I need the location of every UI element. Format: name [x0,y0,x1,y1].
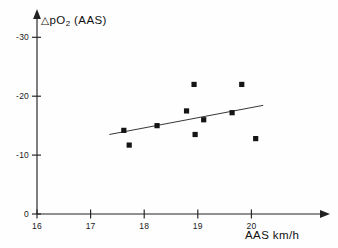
x-axis-arrow-icon [320,210,330,218]
y-tick-label-minus10: -10 [7,151,29,160]
x-tick-label-19: 19 [188,222,208,231]
y-axis-title-o: O [56,14,65,26]
y-tick-label-minus20: -20 [7,92,29,101]
data-point-marker [230,110,235,115]
y-axis-title-unit: (AAS) [74,14,107,26]
plot-area [0,0,338,248]
data-point-marker [193,132,198,137]
data-point-marker [127,142,132,147]
data-point-marker [201,117,206,122]
y-axis [33,9,41,214]
data-point-group [121,82,258,148]
y-tick-label-zero: 0 [7,210,29,219]
y-tick-label-minus30: -30 [7,33,29,42]
y-axis-arrow-icon [33,9,41,19]
data-point-marker [184,108,189,113]
y-axis-title: △pO2 (AAS) [41,15,107,28]
data-point-marker [121,128,126,133]
x-tick-label-18: 18 [134,222,154,231]
x-axis-title: AAS km/h [245,230,299,242]
x-axis [37,210,330,218]
data-point-marker [191,82,196,87]
data-point-marker [154,123,159,128]
data-point-marker [239,82,244,87]
y-axis-title-subscript: 2 [66,19,71,28]
scatter-chart-figure: -30 -20 -10 0 16 17 18 19 20 △pO2 (AAS) … [0,0,338,248]
x-tick-label-16: 16 [27,222,47,231]
data-point-marker [253,136,258,141]
x-tick-label-17: 17 [81,222,101,231]
